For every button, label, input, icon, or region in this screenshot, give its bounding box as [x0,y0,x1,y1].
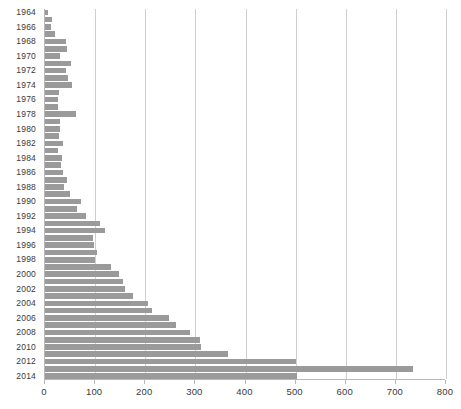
x-axis-tick-label-300: 300 [186,386,202,397]
bar-1986 [45,170,63,176]
bar-1975 [45,90,59,96]
y-axis-tick-label-1970: 1970 [16,52,36,61]
bar-1984 [45,155,62,161]
bar-2010 [45,344,201,350]
bar-2004 [45,301,148,307]
bar-1995 [45,235,93,241]
bar-1970 [45,53,60,59]
y-axis-tick-label-1974: 1974 [16,81,36,90]
x-axis-tick-700 [395,380,396,384]
x-axis-tick-300 [194,380,195,384]
x-axis-tick-label-0: 0 [41,386,46,397]
x-axis-tick-label-400: 400 [236,386,252,397]
x-axis-tick-label-200: 200 [136,386,152,397]
bar-1994 [45,228,105,234]
bar-1977 [45,104,58,110]
bar-2008 [45,330,190,336]
bar-1969 [45,46,67,52]
bar-1967 [45,31,55,37]
y-axis-tick-label-1992: 1992 [16,212,36,221]
bar-1999 [45,264,111,270]
bar-2001 [45,279,123,285]
gridline-800 [446,9,447,379]
bar-1987 [45,177,67,183]
y-axis-tick-label-1986: 1986 [16,168,36,177]
bar-1974 [45,82,72,88]
y-axis-tick-label-2002: 2002 [16,285,36,294]
bar-1991 [45,206,77,212]
bar-1982 [45,141,63,147]
x-axis-tick-label-700: 700 [387,386,403,397]
y-axis-tick-label-2012: 2012 [16,357,36,366]
bar-1980 [45,126,60,132]
y-axis-tick-label-1980: 1980 [16,125,36,134]
x-axis-tick-label-500: 500 [286,386,302,397]
y-axis-tick-label-2004: 2004 [16,299,36,308]
y-axis-tick-label-1996: 1996 [16,241,36,250]
bar-2000 [45,271,119,277]
x-axis: 0100200300400500600700800 [44,380,445,404]
bar-1985 [45,162,61,168]
bar-1989 [45,191,70,197]
bar-2002 [45,286,125,292]
x-axis-tick-500 [295,380,296,384]
y-axis-tick-label-2006: 2006 [16,314,36,323]
bar-2014 [45,373,297,379]
bar-2009 [45,337,200,343]
bar-1978 [45,111,76,117]
bar-1979 [45,119,60,125]
bar-1976 [45,97,58,103]
y-axis-labels: 1964196619681970197219741976197819801982… [0,9,41,380]
y-axis-tick-label-1976: 1976 [16,95,36,104]
y-axis-tick-label-1988: 1988 [16,183,36,192]
y-axis-tick-label-1966: 1966 [16,23,36,32]
y-axis-tick-label-2014: 2014 [16,372,36,381]
y-axis-tick-label-1998: 1998 [16,255,36,264]
x-axis-tick-label-600: 600 [337,386,353,397]
x-axis-tick-label-100: 100 [86,386,102,397]
y-axis-tick-label-1978: 1978 [16,110,36,119]
y-axis-tick-label-1972: 1972 [16,66,36,75]
bar-1992 [45,213,86,219]
bar-2006 [45,315,169,321]
bar-2012 [45,359,296,365]
bar-1993 [45,221,100,227]
plot-area [44,9,445,380]
x-axis-tick-800 [445,380,446,384]
bar-2013 [45,366,413,372]
bar-1968 [45,39,66,45]
bar-2011 [45,351,228,357]
x-axis-tick-400 [245,380,246,384]
y-axis-tick-label-1990: 1990 [16,197,36,206]
bar-1981 [45,133,59,139]
y-axis-tick-label-2008: 2008 [16,328,36,337]
y-axis-tick-label-2010: 2010 [16,343,36,352]
bar-1983 [45,148,58,154]
bar-chart: 1964196619681970197219741976197819801982… [0,0,461,409]
bar-1997 [45,250,97,256]
x-axis-tick-600 [345,380,346,384]
bar-1988 [45,184,64,190]
bars-layer [45,9,445,379]
bar-1964 [45,10,48,16]
bar-2005 [45,308,152,314]
y-axis-tick-label-1982: 1982 [16,139,36,148]
bar-1996 [45,242,94,248]
x-axis-tick-0 [44,380,45,384]
bar-1973 [45,75,68,81]
bar-1998 [45,257,95,263]
y-axis-tick-label-1964: 1964 [16,8,36,17]
bar-1971 [45,61,71,67]
bar-1972 [45,68,66,74]
y-axis-tick-label-1994: 1994 [16,226,36,235]
y-axis-tick-label-1968: 1968 [16,37,36,46]
y-axis-tick-label-1984: 1984 [16,154,36,163]
bar-2003 [45,293,133,299]
y-axis-tick-label-2000: 2000 [16,270,36,279]
bar-1965 [45,17,52,23]
x-axis-tick-label-800: 800 [437,386,453,397]
bar-1966 [45,24,51,30]
bar-1990 [45,199,81,205]
x-axis-tick-200 [144,380,145,384]
x-axis-tick-100 [94,380,95,384]
